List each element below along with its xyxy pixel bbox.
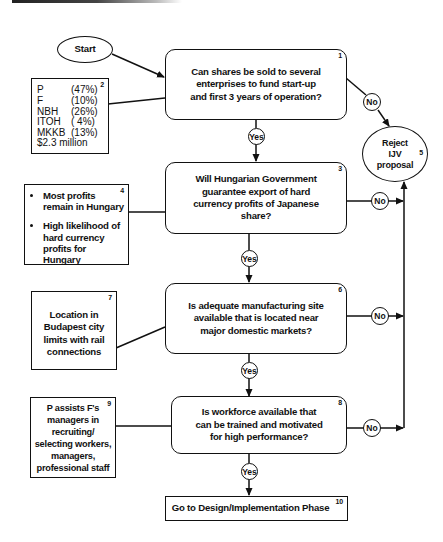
node-number: 5 xyxy=(419,147,423,158)
edge-note7-to-6 xyxy=(116,327,165,348)
decision-8-workforce: 8 Is workforce available that can be tra… xyxy=(171,396,347,454)
process-10-design-phase: 10 Go to Design/Implementation Phase xyxy=(165,496,348,521)
no-label-6: No xyxy=(371,307,389,325)
yes-text: Yes xyxy=(249,132,264,142)
process-text: Go to Design/Implementation Phase xyxy=(172,502,330,514)
node-number: 6 xyxy=(338,286,342,294)
bullet-item: High likelihood of hard currency profits… xyxy=(43,220,124,265)
node-number: 1 xyxy=(338,52,342,60)
no-label-1: No xyxy=(363,93,381,111)
decision-text: Can shares be sold to several enterprise… xyxy=(188,66,324,103)
note-4-profits: 4 Most profits remain in Hungary High li… xyxy=(24,184,129,265)
yes-label-6: Yes xyxy=(241,362,258,379)
yes-text: Yes xyxy=(242,366,257,376)
decision-6-manufacturing-site: 6 Is adequate manufacturing site availab… xyxy=(165,283,347,354)
node-number: 8 xyxy=(338,399,342,407)
yes-label-1: Yes xyxy=(248,128,265,145)
start-terminal: Start xyxy=(57,36,113,63)
edge-1-to-no xyxy=(346,78,366,95)
note-7-location: 7 Location in Budapest city limits with … xyxy=(31,291,117,370)
edge-note2-to-1 xyxy=(108,98,165,104)
no-label-3: No xyxy=(371,192,389,210)
decision-1-fund-shares: 1 Can shares be sold to several enterpri… xyxy=(165,49,347,120)
note-text: Location in Budapest city limits with ra… xyxy=(42,309,106,359)
node-number: 2 xyxy=(100,81,104,89)
no-text: No xyxy=(374,311,385,321)
profit-bullets: Most profits remain in Hungary High like… xyxy=(29,190,124,265)
terminal-text: Reject IJV proposal xyxy=(375,138,415,171)
edge-no-to-5 xyxy=(378,110,389,126)
bullet-item: Most profits remain in Hungary xyxy=(43,190,124,212)
note-2-shareholders: 2 P (47%) F (10%) NBH (26%) ITOH ( 4%) M… xyxy=(31,78,109,154)
decision-text: Will Hungarian Government guarantee expo… xyxy=(188,173,324,223)
node-number: 4 xyxy=(120,187,124,195)
no-text: No xyxy=(366,423,377,433)
node-number: 3 xyxy=(338,165,342,173)
yes-text: Yes xyxy=(242,467,257,477)
yes-label-8: Yes xyxy=(241,463,258,480)
share-total: $2.3 million xyxy=(37,138,107,149)
no-text: No xyxy=(366,97,377,107)
note-text: P assists F's managers in recruiting/ se… xyxy=(33,402,113,474)
note-9-recruiting: 9 P assists F's managers in recruiting/ … xyxy=(30,397,116,478)
node-number: 9 xyxy=(107,400,111,408)
no-label-8: No xyxy=(363,419,381,437)
no-text: No xyxy=(374,196,385,206)
decision-3-export-guarantee: 3 Will Hungarian Government guarantee ex… xyxy=(165,162,347,234)
yes-label-3: Yes xyxy=(241,250,258,267)
edge-start-to-1 xyxy=(112,54,164,77)
decision-text: Is workforce available that can be train… xyxy=(194,406,324,443)
node-number: 7 xyxy=(108,294,112,302)
terminal-5-reject: Reject IJV proposal 5 xyxy=(362,126,428,182)
decision-text: Is adequate manufacturing site available… xyxy=(188,300,324,337)
start-label: Start xyxy=(75,43,96,55)
shareholder-table: P (47%) F (10%) NBH (26%) ITOH ( 4%) MKK… xyxy=(37,85,107,149)
yes-text: Yes xyxy=(242,254,257,264)
node-number: 10 xyxy=(336,498,343,506)
